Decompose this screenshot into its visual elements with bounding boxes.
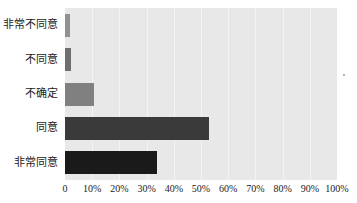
bar-chart: 非常不同意 不同意 不确定 同意 非常同意 010%20%30%40%50%60…: [0, 0, 357, 203]
x-axis-tick-labels: 010%20%30%40%50%60%70%80%90%100%: [65, 180, 337, 200]
bar-row-1: [65, 42, 337, 76]
x-axis-tick-100: 100%: [325, 183, 348, 195]
y-axis-label-text: 非常不同意: [3, 19, 58, 31]
y-axis-label-4: 非常同意: [0, 146, 62, 180]
y-axis-label-1: 不同意: [0, 42, 62, 76]
bar-row-3: [65, 111, 337, 145]
x-axis-tick-10: 10%: [83, 183, 101, 195]
y-axis-label-3: 同意: [0, 111, 62, 145]
bar-row-4: [65, 146, 337, 180]
bar-1: [65, 48, 71, 71]
x-axis-tick-20: 20%: [110, 183, 128, 195]
y-axis-label-text: 不同意: [25, 54, 58, 66]
bar-series: [65, 8, 337, 180]
x-axis-tick-60: 60%: [219, 183, 237, 195]
x-axis-tick-70: 70%: [246, 183, 264, 195]
x-axis-tick-0: 0: [63, 183, 68, 195]
x-axis-tick-80: 80%: [273, 183, 291, 195]
x-axis-tick-30: 30%: [137, 183, 155, 195]
bar-row-2: [65, 77, 337, 111]
bar-3: [65, 117, 209, 140]
x-axis-tick-90: 90%: [301, 183, 319, 195]
y-axis-label-text: 不确定: [25, 88, 58, 100]
image-speck-artifact: [343, 74, 345, 76]
y-axis-category-labels: 非常不同意 不同意 不确定 同意 非常同意: [0, 8, 62, 180]
x-axis-tick-50: 50%: [192, 183, 210, 195]
x-axis-tick-40: 40%: [165, 183, 183, 195]
bar-row-0: [65, 8, 337, 42]
bar-4: [65, 151, 157, 174]
y-axis-label-2: 不确定: [0, 77, 62, 111]
y-axis-label-text: 同意: [36, 122, 58, 134]
y-axis-label-0: 非常不同意: [0, 8, 62, 42]
y-axis-label-text: 非常同意: [14, 157, 58, 169]
bar-0: [65, 14, 70, 37]
bar-2: [65, 83, 94, 106]
plot-area: [65, 8, 337, 180]
